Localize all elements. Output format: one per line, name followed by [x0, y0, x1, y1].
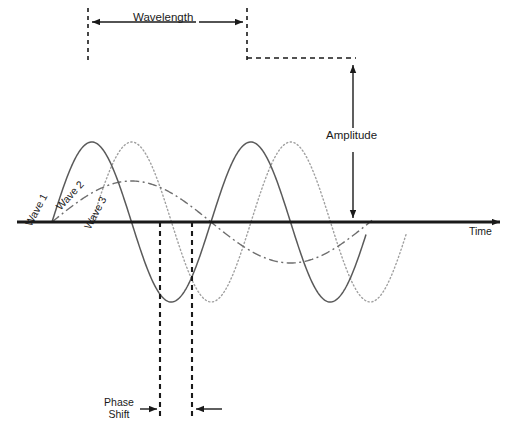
amplitude-label: Amplitude	[326, 129, 377, 142]
phase-shift-label-line2: Shift	[108, 408, 129, 420]
time-axis-label: Time	[469, 225, 492, 237]
phase-shift-label: PhaseShift	[97, 396, 141, 420]
wave-diagram-canvas	[0, 0, 522, 438]
wave-diagram: Wavelength Amplitude Time PhaseShift Wav…	[0, 0, 522, 438]
wavelength-label: Wavelength	[133, 11, 193, 24]
phase-shift-label-line1: Phase	[104, 396, 134, 408]
